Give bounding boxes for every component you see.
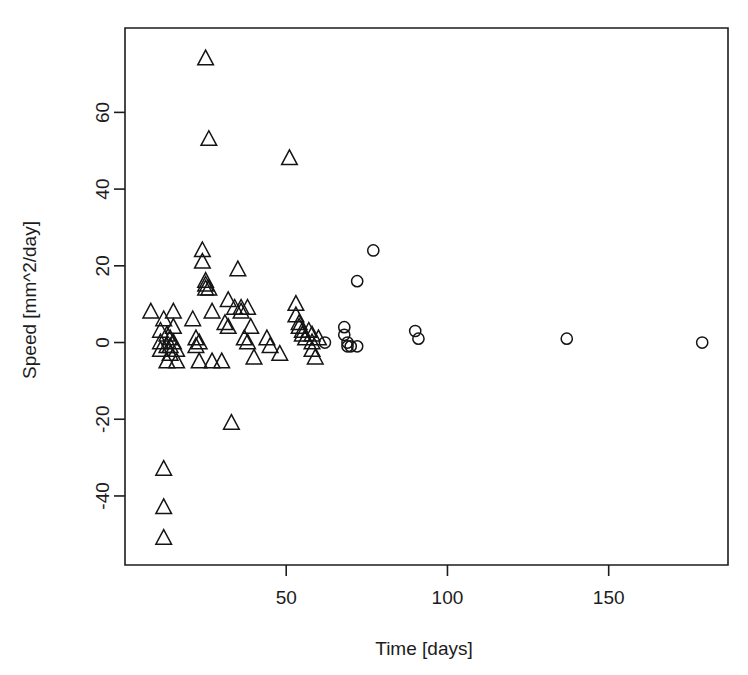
data-point-triangle: [156, 499, 172, 514]
data-point-triangle: [230, 261, 246, 276]
x-axis-ticks: 50100150: [276, 565, 625, 608]
data-points-layer: [143, 50, 708, 544]
chart-page: -40-200204060 50100150 Time [days] Speed…: [0, 0, 748, 675]
data-point-triangle: [156, 530, 172, 545]
data-point-triangle: [156, 461, 172, 476]
data-point-circle: [561, 333, 572, 344]
x-axis-label: Time [days]: [375, 638, 473, 659]
scatter-plot: -40-200204060 50100150 Time [days] Speed…: [0, 0, 748, 675]
data-point-circle: [368, 245, 379, 256]
data-point-triangle: [224, 415, 240, 430]
y-axis-label: Speed [mm^2/day]: [19, 221, 40, 379]
y-tick-label: 60: [93, 102, 114, 123]
data-point-triangle: [201, 131, 217, 146]
data-point-triangle: [220, 292, 236, 307]
data-point-triangle: [185, 311, 201, 326]
y-tick-label: 20: [93, 255, 114, 276]
y-tick-label: -20: [93, 406, 114, 433]
data-point-triangle: [166, 303, 182, 318]
plot-frame: [125, 28, 728, 565]
data-point-triangle: [143, 303, 159, 318]
y-tick-label: 0: [93, 337, 114, 348]
x-tick-label: 50: [276, 587, 297, 608]
data-point-triangle: [195, 253, 211, 268]
x-tick-label: 150: [593, 587, 625, 608]
data-point-triangle: [198, 50, 214, 65]
data-point-circle: [352, 276, 363, 287]
y-tick-label: -40: [93, 482, 114, 509]
series-circles: [319, 245, 707, 352]
data-point-triangle: [246, 349, 262, 364]
data-point-triangle: [282, 150, 298, 165]
data-point-circle: [697, 337, 708, 348]
y-tick-label: 40: [93, 179, 114, 200]
x-tick-label: 100: [432, 587, 464, 608]
y-axis-ticks: -40-200204060: [93, 102, 126, 510]
series-triangles: [143, 50, 326, 544]
data-point-triangle: [204, 303, 220, 318]
